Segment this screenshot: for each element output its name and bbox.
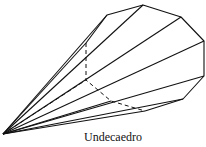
base-outline [86, 5, 204, 111]
undecahedron-figure [0, 0, 206, 147]
figure-caption: Undecaedro [0, 130, 206, 145]
hidden-base-outline [86, 43, 145, 111]
lateral-edge [3, 15, 107, 134]
lateral-edge [3, 41, 204, 134]
